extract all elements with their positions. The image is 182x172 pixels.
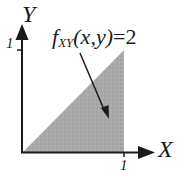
func-subscript: XY (58, 35, 73, 50)
shaded-region (23, 50, 124, 152)
density-annotation: fXY(x,y)=2 (52, 26, 136, 49)
y-tick-label: 1 (6, 36, 14, 51)
x-axis-arrowhead-icon (138, 146, 155, 159)
func-value: =2 (113, 24, 136, 49)
func-args: (x,y) (73, 24, 113, 49)
y-axis-label: Y (22, 2, 35, 26)
x-tick-label: 1 (120, 158, 128, 172)
x-axis-label: X (158, 137, 173, 161)
